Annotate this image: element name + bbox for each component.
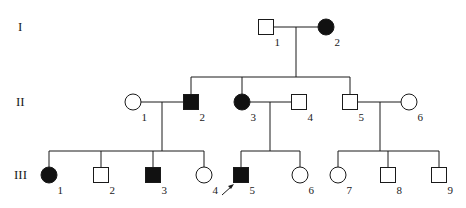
individual-number-II-1: 1	[142, 111, 148, 123]
individual-number-II-6: 6	[418, 111, 424, 123]
individual-number-III-7: 7	[347, 184, 353, 196]
individual-III-1-female-affected-symbol	[41, 167, 57, 183]
individual-II-6-female-unaffected-symbol	[401, 94, 417, 110]
generation-label-I: I	[18, 19, 22, 34]
individual-II-4-male-unaffected-symbol	[292, 95, 307, 110]
individual-number-III-3: 3	[162, 184, 168, 196]
individual-number-II-4: 4	[308, 111, 314, 123]
individual-II-5-male-unaffected-symbol	[343, 95, 358, 110]
individual-number-II-2: 2	[200, 111, 206, 123]
individual-number-III-5: 5	[250, 184, 256, 196]
individual-number-I-2: 2	[335, 36, 341, 48]
individual-number-I-1: 1	[275, 36, 281, 48]
individual-number-III-9: 9	[448, 184, 454, 196]
individual-number-III-4: 4	[213, 184, 219, 196]
individual-number-III-1: 1	[58, 184, 64, 196]
individual-I-1-male-unaffected-symbol	[259, 20, 274, 35]
individual-III-2-male-unaffected-symbol	[94, 168, 109, 183]
individual-I-2-female-affected-symbol	[318, 19, 334, 35]
generation-label-III: III	[14, 167, 27, 182]
individual-number-II-5: 5	[359, 111, 365, 123]
individual-symbols	[41, 19, 447, 183]
individual-number-II-3: 3	[251, 111, 257, 123]
pedigree-chart: I II III 12123456123456789	[0, 0, 466, 208]
individual-number-III-8: 8	[397, 184, 403, 196]
individual-II-1-female-unaffected-symbol	[125, 94, 141, 110]
individual-III-7-female-unaffected-symbol	[330, 167, 346, 183]
individual-III-8-male-unaffected-symbol	[381, 168, 396, 183]
individual-III-9-male-unaffected-symbol	[432, 168, 447, 183]
individual-III-3-male-affected-symbol	[146, 168, 161, 183]
individual-II-3-female-affected-symbol	[234, 94, 250, 110]
individual-III-5-male-affected-symbol	[234, 168, 249, 183]
individual-number-III-2: 2	[110, 184, 116, 196]
pedigree-svg: I II III 12123456123456789	[0, 0, 466, 208]
generation-label-II: II	[16, 94, 25, 109]
individual-number-III-6: 6	[309, 184, 315, 196]
proband-arrow-icon	[222, 184, 234, 195]
individual-III-6-female-unaffected-symbol	[292, 167, 308, 183]
individual-III-4-female-unaffected-symbol	[196, 167, 212, 183]
individual-II-2-male-affected-symbol	[184, 95, 199, 110]
